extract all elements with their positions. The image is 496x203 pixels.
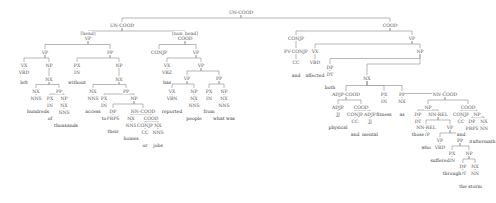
node-label: NX	[154, 123, 162, 128]
node-label: PX	[73, 63, 80, 68]
node-label: NNS	[188, 103, 200, 108]
node-label: PX	[205, 89, 212, 94]
leaf-word: their	[107, 129, 119, 134]
leaf-word: mental	[361, 132, 378, 137]
node-label: IN	[381, 99, 388, 104]
node-label: JJ	[368, 119, 373, 124]
leaf-word: what was	[213, 116, 236, 121]
leaf-word: has	[162, 80, 171, 85]
node-label: CONJP	[452, 112, 469, 117]
leaf-word: hundreds	[26, 109, 49, 114]
node-label: NN-COOD	[432, 92, 457, 97]
node-label: NP	[473, 112, 481, 117]
node-label: NX	[32, 89, 40, 94]
node-label: NP	[220, 89, 228, 94]
node-label: PRPS	[465, 126, 479, 131]
leaf-word: through	[442, 171, 462, 176]
node-label: PP	[55, 89, 62, 94]
node-label: CC	[292, 60, 300, 65]
node-label: CONJP	[136, 123, 153, 128]
node-label: DP	[109, 109, 117, 114]
leaf-word: without	[68, 80, 87, 85]
node-label: VBN	[166, 96, 178, 101]
leaf-word: from	[203, 109, 215, 114]
node-label: PX	[46, 96, 53, 101]
node-label: ADJP-COOD	[332, 92, 361, 97]
node-label: VP	[408, 36, 415, 41]
node-label: NX	[398, 99, 406, 104]
leaf-word: reported	[161, 109, 182, 114]
node-label: VP	[84, 36, 91, 41]
node-label: UN-COOD	[228, 10, 253, 15]
node-label: NX	[115, 77, 123, 82]
node-label: DP	[468, 119, 476, 124]
leaf-word: fitness	[376, 112, 392, 117]
leaf-word: those	[411, 132, 425, 137]
node-label: DP	[459, 164, 467, 169]
leaf-word: suffered	[430, 158, 450, 163]
leaf-word: affected	[305, 73, 325, 78]
node-label: NX	[45, 77, 53, 82]
node-label: VBD	[309, 60, 320, 65]
leaf-word: and	[456, 132, 466, 137]
leaf-word: or	[142, 143, 148, 148]
node-label: NX	[89, 89, 97, 94]
node-label: NX	[220, 96, 228, 101]
node-label: NNS	[30, 96, 42, 101]
leaf-word: as	[399, 112, 405, 117]
node-label: VP	[436, 138, 443, 143]
node-label: PX	[448, 151, 455, 156]
node-label: NP	[45, 63, 53, 68]
leaf-word: storm	[468, 184, 483, 189]
node-label: NNS	[58, 110, 70, 115]
node-label: VP	[446, 125, 453, 130]
node-label: NX	[127, 116, 135, 121]
node-label: NP	[190, 89, 198, 94]
node-label: COOD	[460, 105, 476, 110]
node-label: DP	[414, 112, 422, 117]
node-label: NNS	[152, 130, 164, 135]
node-label: PX	[380, 92, 387, 97]
node-label: CC	[141, 130, 149, 135]
node-label: PP	[456, 138, 463, 143]
node-label: VP	[41, 50, 48, 55]
leaf-word: of	[47, 116, 52, 121]
node-label: DT	[414, 119, 422, 124]
node-label: NP	[130, 96, 138, 101]
node-label: CONJP	[346, 112, 363, 117]
node-label: NN	[470, 171, 479, 176]
node-label: NP	[115, 63, 123, 68]
node-label: VP	[197, 63, 204, 68]
node-label: COOD	[382, 23, 398, 28]
node-label: NN	[479, 126, 488, 131]
node-label: PP	[215, 76, 222, 81]
node-label: NP	[424, 105, 432, 110]
node-label: CONJP	[287, 36, 304, 41]
node-label: NN-COOD	[130, 109, 155, 114]
node-label: COOD	[143, 116, 159, 121]
node-label: VX	[20, 63, 28, 68]
node-label: COOD	[353, 105, 369, 110]
node-label: PP	[106, 50, 113, 55]
node-label: VBD	[434, 145, 445, 150]
node-label: VX	[163, 63, 171, 68]
node-label: NX	[60, 103, 68, 108]
leaf-word: to	[101, 116, 107, 121]
node-label: NNS	[87, 96, 99, 101]
node-label: PP	[122, 89, 129, 94]
node-label: NNS	[125, 123, 137, 128]
node-label: PP	[398, 92, 405, 97]
node-label: DT	[326, 72, 334, 77]
node-label: VP	[192, 50, 199, 55]
node-label: VX	[311, 49, 319, 54]
node-label: IN	[74, 70, 81, 75]
node-label: NX	[190, 96, 198, 101]
leaf-word: thousands	[54, 123, 79, 128]
leaf-word: and	[350, 132, 360, 137]
node-label: NX	[480, 119, 488, 124]
node-label: NX	[363, 76, 371, 81]
node-label: CC	[457, 119, 465, 124]
leaf-word: left	[20, 80, 29, 85]
node-label: VBZ	[162, 70, 173, 75]
node-label: IN	[101, 103, 108, 108]
